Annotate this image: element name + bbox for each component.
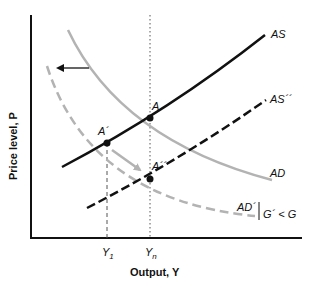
point-a-double-prime — [147, 176, 154, 183]
y-axis-title: Price level, P — [7, 112, 19, 180]
tick-yn: Yn — [145, 246, 157, 261]
label-a-double-prime: A´´ — [151, 160, 167, 172]
as-curve — [62, 35, 265, 167]
label-as-double-prime: AS´´ — [269, 93, 292, 105]
point-a — [147, 115, 154, 122]
ad-prime-curve — [47, 66, 255, 216]
label-g-condition: G´ < G — [263, 208, 297, 220]
label-ad-prime: AD´ — [236, 201, 256, 213]
tick-y1: Y1 — [102, 246, 114, 261]
label-a-prime: A´ — [97, 125, 109, 137]
x-axis-title: Output, Y — [130, 266, 180, 278]
as-double-prime-curve — [87, 100, 266, 208]
label-as: AS — [270, 28, 286, 40]
point-a-prime — [104, 140, 111, 147]
ad-as-diagram: A A´ A´´ AS AS´´ AD AD´ G´ < G Y1 Yn Out… — [0, 0, 315, 285]
adjustment-arrow — [112, 150, 140, 170]
label-a: A — [151, 100, 159, 112]
label-ad: AD — [269, 167, 285, 179]
